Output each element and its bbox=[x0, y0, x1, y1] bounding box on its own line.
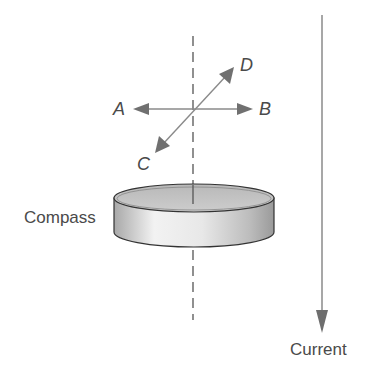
label-d: D bbox=[240, 56, 253, 74]
current-wire-arrow bbox=[316, 15, 328, 333]
compass-wire-diagram bbox=[0, 0, 380, 373]
label-a: A bbox=[113, 100, 125, 118]
arrow-c-d bbox=[155, 67, 234, 153]
label-compass: Compass bbox=[24, 209, 96, 226]
label-b: B bbox=[259, 100, 271, 118]
label-c: C bbox=[137, 155, 150, 173]
compass bbox=[114, 184, 274, 247]
label-current: Current bbox=[290, 341, 347, 358]
